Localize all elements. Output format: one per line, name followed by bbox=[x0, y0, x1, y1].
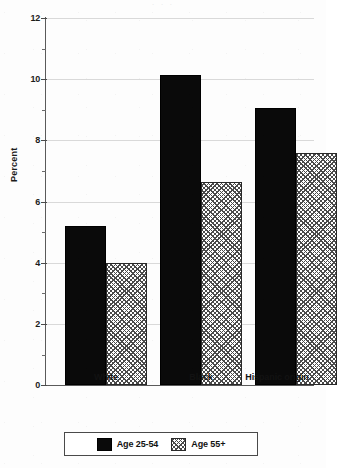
y-minor-tick-5 bbox=[42, 232, 46, 233]
legend-entry-age-25-54: Age 25-54 bbox=[97, 438, 159, 451]
y-minor-tick-1 bbox=[42, 355, 46, 356]
solid-black-swatch-icon bbox=[97, 438, 112, 451]
y-tick-label-6: 6 bbox=[35, 197, 40, 207]
y-tick-label-4: 4 bbox=[35, 258, 40, 268]
x-category-label-black: Black bbox=[189, 372, 213, 382]
y-tick-label-10: 10 bbox=[30, 74, 40, 84]
legend-label-age-25-54: Age 25-54 bbox=[117, 439, 159, 449]
bar-hispanic-age-55-plus bbox=[296, 153, 337, 385]
chart-legend: Age 25-54 Age 55+ bbox=[64, 432, 258, 456]
y-axis-title: Percent bbox=[9, 148, 19, 182]
bar-black-age-55-plus bbox=[201, 182, 242, 385]
y-minor-tick-9 bbox=[42, 110, 46, 111]
cross-hatch-swatch-icon bbox=[171, 438, 186, 451]
y-tick-label-8: 8 bbox=[35, 135, 40, 145]
plot-area: 12 10 8 6 4 2 0 bbox=[46, 18, 314, 385]
cropped-title-remnant: · · · bbox=[0, 0, 326, 6]
x-category-label-hispanic: Hispanic origin bbox=[245, 372, 309, 382]
bar-white-age-55-plus bbox=[106, 263, 147, 385]
bar-hispanic-age-25-54 bbox=[255, 108, 296, 385]
bar-white-age-25-54 bbox=[65, 226, 106, 385]
y-tick-label-12: 12 bbox=[30, 13, 40, 23]
y-minor-tick-3 bbox=[42, 293, 46, 294]
x-category-label-white: White bbox=[94, 372, 118, 382]
y-tick-label-2: 2 bbox=[35, 319, 40, 329]
x-axis-line bbox=[45, 385, 314, 386]
bar-black-age-25-54 bbox=[160, 75, 201, 385]
y-minor-tick-11 bbox=[42, 49, 46, 50]
y-tick-label-0: 0 bbox=[35, 380, 40, 390]
legend-entry-age-55-plus: Age 55+ bbox=[171, 438, 225, 451]
legend-label-age-55-plus: Age 55+ bbox=[191, 439, 225, 449]
y-minor-tick-7 bbox=[42, 171, 46, 172]
